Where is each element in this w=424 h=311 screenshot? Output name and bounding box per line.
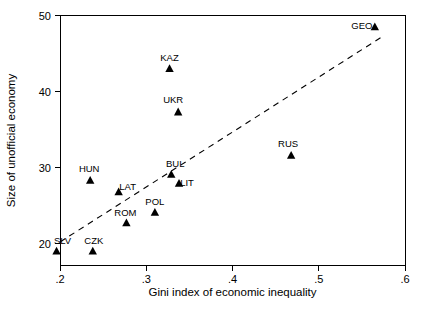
x-tick-label-p2: .2 — [55, 273, 64, 285]
axis-titles: Gini index of economic inequalitySize of… — [5, 74, 317, 298]
point-label-slv: SLV — [54, 235, 72, 246]
point-label-bul: BUL — [166, 158, 184, 169]
x-axis-title: Gini index of economic inequality — [148, 286, 316, 298]
data-marker-ukr — [174, 108, 182, 116]
y-tick-label-40: 40 — [39, 86, 51, 98]
data-marker-slv — [52, 247, 60, 255]
data-points: SLVCZKROMPOLLATHUNLITBULRUSUKRKAZGEO — [52, 20, 379, 255]
point-label-rus: RUS — [278, 138, 298, 149]
point-label-pol: POL — [145, 196, 164, 207]
data-marker-rus — [287, 151, 295, 159]
y-tick-label-20: 20 — [39, 238, 51, 250]
point-label-czk: CZK — [84, 235, 104, 246]
data-marker-pol — [151, 208, 159, 216]
point-label-ukr: UKR — [163, 94, 183, 105]
y-axis-title: Size of unofficial economy — [5, 74, 17, 208]
x-tick-label-p5: .5 — [314, 273, 323, 285]
plot-frame — [60, 16, 405, 266]
data-marker-kaz — [165, 64, 173, 72]
data-marker-bul — [167, 170, 175, 178]
trend-line — [60, 38, 381, 242]
point-label-lat: LAT — [119, 181, 136, 192]
point-label-hun: HUN — [79, 163, 100, 174]
scatter-plot-figure: 20304050.2.3.4.5.6 SLVCZKROMPOLLATHUNLIT… — [0, 0, 424, 311]
x-tick-label-p4: .4 — [228, 273, 237, 285]
y-tick-label-30: 30 — [39, 162, 51, 174]
y-tick-label-50: 50 — [39, 10, 51, 22]
x-tick-label-p3: .3 — [142, 273, 151, 285]
data-marker-hun — [86, 176, 94, 184]
point-label-kaz: KAZ — [160, 52, 179, 63]
data-marker-czk — [89, 247, 97, 255]
point-label-lit: LIT — [180, 177, 194, 188]
regression-trend-line — [60, 38, 381, 242]
x-tick-label-p6: .6 — [400, 273, 409, 285]
plot-canvas: 20304050.2.3.4.5.6 SLVCZKROMPOLLATHUNLIT… — [0, 0, 424, 311]
point-label-rom: ROM — [114, 207, 136, 218]
point-label-geo: GEO — [351, 20, 372, 31]
data-marker-rom — [122, 219, 130, 227]
